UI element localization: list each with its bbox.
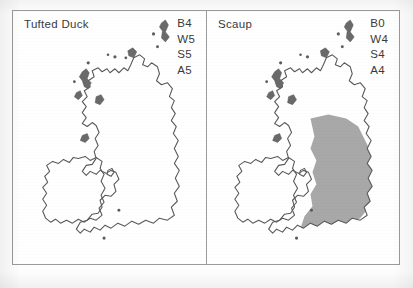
code-b: B4 — [177, 16, 191, 32]
code-list-scaup: B0 W4 S4 A4 — [370, 16, 388, 78]
landmass-isle-of-man — [300, 168, 307, 176]
code-w: W4 — [370, 32, 388, 48]
code-w: W5 — [177, 32, 195, 48]
island-speck-8 — [310, 209, 313, 212]
island-skye — [288, 95, 297, 105]
landmass-great-britain — [76, 55, 179, 233]
landmass-isle-of-man — [107, 168, 114, 176]
island-skye — [95, 95, 104, 105]
island-speck-3 — [306, 55, 309, 58]
island-speck-8 — [102, 237, 105, 240]
island-speck-6 — [265, 80, 268, 83]
island-speck-2 — [341, 45, 344, 48]
island-outer-hebrides — [272, 69, 284, 89]
island-islay — [80, 134, 89, 143]
island-shetland — [159, 20, 169, 42]
island-hebrides-south — [74, 91, 82, 100]
island-islay — [273, 134, 282, 143]
island-speck-7 — [124, 56, 127, 59]
island-speck-2 — [156, 45, 159, 48]
island-speck-7 — [295, 237, 298, 240]
island-orkney — [128, 48, 137, 58]
panel-title-tufted-duck: Tufted Duck — [24, 18, 89, 30]
code-b: B0 — [370, 16, 384, 32]
island-speck-5 — [87, 61, 90, 64]
code-a: A5 — [177, 63, 191, 79]
island-speck-3 — [113, 55, 116, 58]
distribution-fill-scaup — [301, 115, 377, 235]
island-speck-4 — [107, 54, 110, 57]
island-speck-1 — [337, 32, 340, 35]
island-shetland — [344, 20, 354, 42]
code-a: A4 — [370, 63, 384, 79]
code-list-tufted-duck: B4 W5 S5 A5 — [177, 16, 195, 78]
figure-panel-container: Tufted Duck B4 W5 S5 A5 — [12, 10, 400, 265]
island-speck-4 — [299, 54, 302, 57]
panel-title-scaup: Scaup — [218, 18, 252, 30]
code-s: S4 — [370, 47, 384, 63]
code-s: S5 — [177, 47, 191, 63]
panel-scaup: Scaup B0 W4 S4 A4 — [207, 11, 399, 264]
island-hebrides-south — [267, 91, 275, 100]
fill-eastern-england — [301, 115, 377, 235]
island-speck-1 — [152, 32, 155, 35]
island-orkney — [320, 48, 329, 58]
panel-tufted-duck: Tufted Duck B4 W5 S5 A5 — [13, 11, 207, 264]
island-speck-9 — [117, 209, 120, 212]
island-speck-5 — [279, 61, 282, 64]
island-speck-6 — [73, 80, 76, 83]
island-outer-hebrides — [79, 69, 91, 89]
